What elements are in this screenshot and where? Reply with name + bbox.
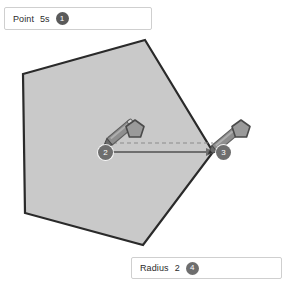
diagram-canvas: 2 3 Point 5s 1 Radius 2 4 (0, 0, 286, 290)
pentagon-marker-center (0, 0, 286, 290)
step-badge-point-tool[interactable]: 1 (56, 12, 69, 25)
pentagon-marker-vertex (0, 0, 286, 290)
point-tool-chip[interactable]: Point 5s 1 (4, 7, 152, 30)
step-badge-point-start[interactable]: 2 (98, 145, 113, 160)
pentagon-shape[interactable] (23, 40, 213, 245)
step-badge-radius-tool[interactable]: 4 (186, 262, 199, 275)
pentagon-tool-icon (232, 120, 250, 137)
pentagon-tool-icon (126, 120, 144, 137)
shape-layer (0, 0, 286, 290)
radius-tool-value: 2 (175, 263, 180, 273)
step-badge-point-end[interactable]: 3 (216, 145, 231, 160)
pen-cursor-vertex (0, 0, 286, 290)
pen-body-icon (107, 119, 135, 145)
radius-tool-label: Radius (140, 263, 169, 273)
radius-arrow (108, 148, 215, 156)
pen-cursor-center (0, 0, 286, 290)
point-tool-label: Point (13, 14, 34, 24)
radius-tool-chip[interactable]: Radius 2 4 (131, 257, 282, 279)
point-tool-value: 5s (40, 14, 50, 24)
